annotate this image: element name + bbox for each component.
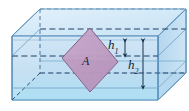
label-h1-subscript: 1 [115,47,119,56]
figure-container: h1 h2 A [0,0,189,111]
tank-diagram-svg [0,0,189,111]
label-h1: h1 [108,38,119,55]
label-h2-symbol: h [128,57,135,72]
label-h1-symbol: h [108,37,115,52]
label-h2: h2 [128,58,139,75]
tank-top-face [12,9,186,36]
label-area: A [82,55,89,67]
label-h2-subscript: 2 [135,67,139,76]
